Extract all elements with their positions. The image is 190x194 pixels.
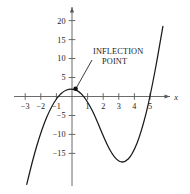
x-tick-label: −3 (21, 102, 30, 111)
x-tick-label: −2 (36, 102, 45, 111)
x-axis-label: x (173, 93, 178, 102)
y-tick-labels: 20 15 10 5 −5 −10 −15 (53, 17, 66, 159)
annotation-line-1: INFLECTION (93, 47, 143, 56)
x-tick-label: 2 (101, 102, 105, 111)
annotation-line-2: POINT (102, 57, 127, 66)
y-tick-label: −15 (53, 149, 66, 158)
y-tick-label: −5 (57, 111, 66, 120)
annotation-leader-line (77, 60, 93, 88)
inflection-point-figure: −3 −2 −1 1 2 3 4 5 20 15 10 5 −5 −10 −15… (0, 0, 190, 194)
inflection-point-marker (73, 87, 78, 92)
inflection-point-annotation: INFLECTION POINT (93, 47, 143, 67)
x-axis (14, 94, 170, 98)
y-tick-label: 5 (61, 73, 65, 82)
y-tick-label: −10 (53, 130, 66, 139)
y-tick-label: 15 (57, 36, 65, 45)
y-tick-label: 10 (57, 54, 65, 63)
cubic-graph-svg: −3 −2 −1 1 2 3 4 5 20 15 10 5 −5 −10 −15… (0, 0, 190, 194)
x-tick-labels: −3 −2 −1 1 2 3 4 5 (21, 102, 152, 111)
x-tick-label: 3 (117, 102, 121, 111)
x-tick-label: 4 (132, 102, 136, 111)
y-tick-label: 20 (57, 17, 65, 26)
